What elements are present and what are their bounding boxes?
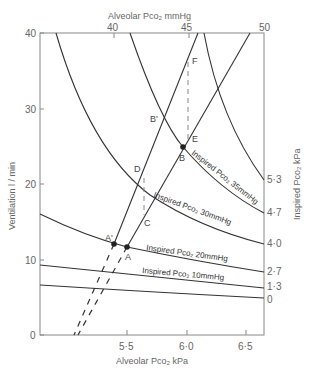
x-tick-6-0: 6·0 (179, 341, 194, 352)
y-tick-20: 20 (25, 179, 37, 190)
x2-tick-40: 40 (107, 22, 119, 33)
x-axis-top (114, 33, 189, 38)
x-tick-5-5: 5·5 (119, 341, 134, 352)
top-axis-title: Alveolar Pco₂ mmHg (108, 11, 191, 21)
curve-label-20: Inspired Pco₂ 20mmHg (146, 243, 229, 263)
y-axis-left (40, 33, 44, 335)
x2-tick-50: 50 (259, 22, 271, 33)
label-a: A (125, 252, 131, 262)
y2-tick-1-3: 1·3 (267, 281, 282, 292)
x-axis-bottom (127, 330, 246, 335)
y2-tick-4-7: 4·7 (267, 207, 282, 218)
y2-tick-0: 0 (267, 294, 273, 305)
curve-inspired-40 (204, 33, 264, 180)
curve-inspired-0 (40, 285, 264, 298)
label-c: C (144, 218, 151, 228)
point-b (180, 144, 186, 150)
left-axis-title: Ventilation l / min (7, 162, 17, 230)
x-tick-6-5: 6·5 (238, 341, 253, 352)
y-tick-0: 0 (30, 330, 36, 341)
bottom-axis-title: Alveolar Pco₂ kPa (116, 356, 188, 366)
point-a (124, 244, 130, 250)
label-a-prime: A' (105, 233, 113, 243)
label-b: B (179, 153, 185, 163)
label-d: D (134, 164, 141, 174)
label-b-prime: B' (150, 114, 158, 124)
response-line-control-extrapolated (78, 247, 127, 335)
y2-tick-5-3: 5·3 (267, 174, 282, 185)
x2-tick-45: 45 (181, 22, 193, 33)
y2-tick-2-7: 2·7 (267, 266, 282, 277)
y-tick-40: 40 (25, 28, 37, 39)
response-line-shifted (114, 33, 198, 244)
curve-label-35: Inspired Pco₂ 35mmHg (190, 148, 260, 206)
label-e: E (192, 134, 198, 144)
curve-label-30: Inspired Pco₂ 30mmHg (152, 190, 232, 227)
right-axis-title: Inspired Pco₂ kPa (292, 148, 302, 220)
curve-inspired-30 (56, 33, 264, 244)
y-tick-10: 10 (25, 255, 37, 266)
chart: 0 10 20 30 40 Ventilation l / min 5·5 6·… (0, 0, 311, 374)
label-f: F (192, 56, 198, 66)
y-tick-30: 30 (25, 104, 37, 115)
y2-tick-4-0: 4·0 (267, 238, 282, 249)
